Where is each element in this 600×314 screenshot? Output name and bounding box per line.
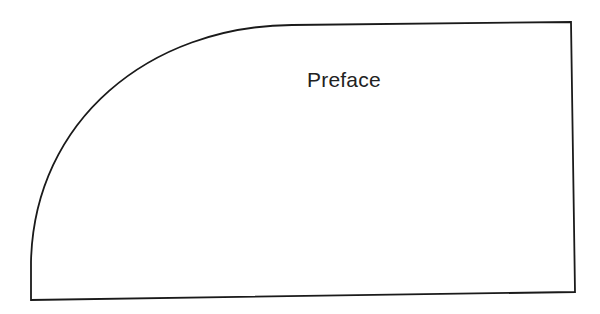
- chapter-heading: Preface: [307, 68, 381, 92]
- quarter-round-border: [31, 22, 575, 300]
- decorative-frame: [0, 0, 600, 314]
